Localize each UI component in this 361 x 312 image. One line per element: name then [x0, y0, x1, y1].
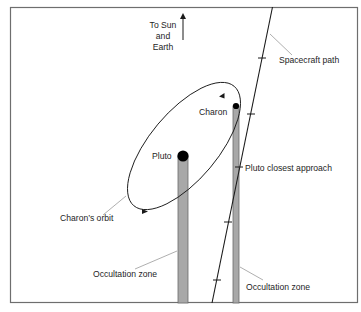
- to-sun-label-line-1: To Sun: [150, 20, 177, 30]
- to-sun-label-line-2: and: [156, 31, 171, 41]
- pluto-occultation-zone: [178, 156, 188, 303]
- occultation-zone-charon-label: Occultation zone: [246, 282, 310, 292]
- charon-occultation-zone: [233, 106, 239, 303]
- occultation-zone-pluto-label: Occultation zone: [93, 269, 157, 279]
- charon-body: [233, 103, 239, 109]
- spacecraft-path-label: Spacecraft path: [279, 55, 339, 65]
- charons-orbit-label: Charon’s orbit: [60, 213, 114, 223]
- charon-label: Charon: [199, 107, 227, 117]
- pluto-closest-approach-label: Pluto closest approach: [245, 163, 332, 173]
- pluto-label: Pluto: [152, 151, 172, 161]
- to-sun-label-line-3: Earth: [153, 42, 174, 52]
- pluto-body: [177, 150, 188, 161]
- pluto-flyby-diagram: To Sun and Earth Spacecraft path Charon …: [0, 0, 361, 312]
